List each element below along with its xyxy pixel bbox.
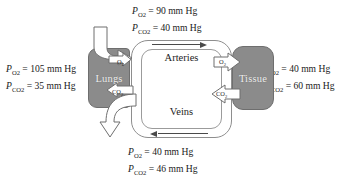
gas-number: 2: [143, 169, 146, 176]
gas-name: CO: [216, 90, 225, 97]
gas-line-pco2: PCO2 = 40 mm Hg: [132, 21, 202, 38]
co2-tissue-arrow-label: CO2: [216, 90, 227, 99]
gas-subscript: CO: [138, 28, 147, 35]
gas-number: 2: [21, 86, 24, 93]
gas-number: 2: [224, 62, 226, 67]
gas-value: = 40 mm Hg: [281, 63, 330, 74]
gas-name: CO: [112, 88, 121, 95]
gas-value: = 105 mm Hg: [22, 63, 76, 74]
venous-flow-arrow: [150, 130, 208, 137]
venous-blood-gas-label: PO2 = 40 mm Hg PCO2 = 46 mm Hg: [128, 145, 198, 180]
tissue-label: Tissue: [239, 73, 267, 84]
gas-number: 2: [121, 92, 123, 97]
alveolar-gas-label: PO2 = 105 mm Hg PCO2 = 35 mm Hg: [6, 62, 76, 97]
flow-arrow-shaft: [158, 133, 208, 134]
gas-line-pco2: PCO2 = 60 mm Hg: [265, 79, 335, 96]
gas-value: = 35 mm Hg: [27, 80, 76, 91]
gas-line-pco2: PCO2 = 46 mm Hg: [128, 162, 198, 179]
gas-line-po2: PO2 = 105 mm Hg: [6, 62, 76, 79]
gas-line-po2: PO2 = 90 mm Hg: [132, 4, 202, 21]
arterial-flow-arrow: [152, 41, 210, 48]
gas-number: 2: [276, 69, 279, 76]
gas-number: 2: [143, 11, 146, 18]
gas-number: 2: [122, 62, 124, 67]
gas-value: = 90 mm Hg: [148, 5, 197, 16]
arteries-label: Arteries: [141, 52, 222, 63]
exhaled-air-arrow-icon: [96, 92, 138, 140]
gas-value: = 46 mm Hg: [149, 163, 198, 174]
gas-number: 2: [280, 86, 283, 93]
o2-tissue-arrow-label: O2: [219, 58, 226, 67]
o2-blood-to-tissue-arrow-icon: [213, 52, 241, 72]
o2-lungs-arrow-label: O2: [117, 58, 124, 67]
co2-lungs-arrow-label: CO2: [112, 88, 123, 97]
veins-label: Veins: [141, 106, 222, 117]
gas-number: 2: [17, 69, 20, 76]
gas-subscript: CO: [134, 169, 143, 176]
gas-value: = 60 mm Hg: [286, 80, 335, 91]
gas-subscript: CO: [12, 86, 21, 93]
gas-exchange-diagram: PO2 = 90 mm Hg PCO2 = 40 mm Hg PO2 = 40 …: [0, 0, 351, 183]
gas-line-po2: PO2 = 40 mm Hg: [265, 62, 335, 79]
gas-line-pco2: PCO2 = 35 mm Hg: [6, 79, 76, 96]
tissue-gas-label: PO2 = 40 mm Hg PCO2 = 60 mm Hg: [265, 62, 335, 97]
flow-arrow-shaft: [152, 44, 202, 45]
arterial-blood-gas-label: PO2 = 90 mm Hg PCO2 = 40 mm Hg: [132, 4, 202, 39]
flow-arrow-head-right-icon: [200, 42, 207, 48]
gas-value: = 40 mm Hg: [153, 22, 202, 33]
gas-number: 2: [147, 28, 150, 35]
flow-arrow-head-left-icon: [150, 131, 157, 137]
gas-number: 2: [139, 152, 142, 159]
gas-value: = 40 mm Hg: [144, 146, 193, 157]
gas-line-po2: PO2 = 40 mm Hg: [128, 145, 198, 162]
gas-number: 2: [225, 94, 227, 99]
